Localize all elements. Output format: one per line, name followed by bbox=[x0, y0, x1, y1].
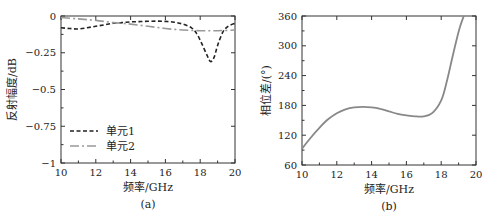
x-tick-label: 14 bbox=[124, 167, 137, 178]
series-line-2 bbox=[61, 18, 235, 31]
y-axis-label: 反射幅度/dB bbox=[5, 58, 19, 121]
legend-label-1: 单元1 bbox=[106, 125, 135, 138]
plot-frame bbox=[61, 16, 235, 163]
series-line-1 bbox=[61, 21, 235, 62]
x-axis-label: 频率/GHz bbox=[123, 180, 173, 194]
x-tick-label: 16 bbox=[400, 169, 413, 180]
y-tick-label: 0 bbox=[50, 11, 56, 22]
x-tick-label: 18 bbox=[435, 169, 448, 180]
y-tick-label: 300 bbox=[278, 40, 297, 51]
x-tick-label: 10 bbox=[296, 169, 309, 180]
y-tick-label: −1 bbox=[41, 158, 56, 169]
x-tick-label: 14 bbox=[365, 169, 378, 180]
x-tick-label: 10 bbox=[55, 167, 68, 178]
plot-frame bbox=[302, 16, 476, 165]
y-tick-label: −0.75 bbox=[25, 121, 56, 132]
y-tick-label: 360 bbox=[278, 11, 297, 22]
y-tick-label: 60 bbox=[284, 160, 297, 171]
x-tick-label: 18 bbox=[194, 167, 207, 178]
x-axis-label: 频率/GHz bbox=[364, 182, 414, 196]
x-tick-label: 20 bbox=[470, 169, 483, 180]
panel-label: (b) bbox=[381, 200, 397, 213]
y-tick-label: −0.5 bbox=[32, 84, 56, 95]
panel-label: (a) bbox=[140, 198, 155, 211]
x-tick-label: 16 bbox=[159, 167, 172, 178]
y-axis-label: 相位差/(°) bbox=[259, 65, 273, 116]
x-tick-label: 20 bbox=[229, 167, 242, 178]
chart-figure: 1012141618200−0.25−0.5−0.75−1频率/GHz反射幅度/… bbox=[0, 0, 492, 216]
panel-a-reflection-magnitude: 1012141618200−0.25−0.5−0.75−1频率/GHz反射幅度/… bbox=[5, 11, 241, 212]
y-tick-label: 180 bbox=[278, 100, 297, 111]
y-tick-label: 240 bbox=[278, 70, 297, 81]
x-tick-label: 12 bbox=[330, 169, 343, 180]
y-tick-label: −0.25 bbox=[25, 47, 56, 58]
series-line-1 bbox=[302, 16, 464, 149]
y-tick-label: 120 bbox=[278, 130, 297, 141]
x-tick-label: 12 bbox=[89, 167, 102, 178]
legend-label-2: 单元2 bbox=[106, 140, 135, 153]
panel-b-phase-difference: 10121416182060120180240300360频率/GHz相位差/(… bbox=[259, 11, 482, 214]
